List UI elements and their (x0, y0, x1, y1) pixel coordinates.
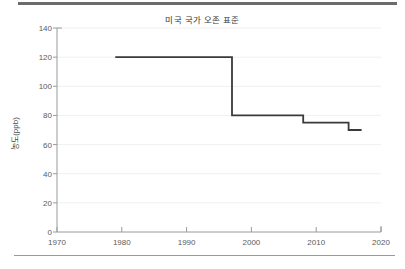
y-tick-label: 40 (26, 169, 52, 178)
y-tick-label: 60 (26, 140, 52, 149)
y-tick-label: 20 (26, 198, 52, 207)
gridlines-group (57, 28, 381, 203)
y-tick-label: 80 (26, 111, 52, 120)
x-tick-label: 2010 (296, 238, 336, 247)
y-axis-tick-labels: 020406080100120140 (26, 0, 52, 269)
chart-plot (0, 0, 405, 269)
ozone-standard-step-line (115, 57, 361, 130)
tick-marks-group (53, 28, 381, 232)
ozone-standard-figure: 미국 국가 오존 표준 농도(ppb) 020406080100120140 1… (0, 0, 405, 269)
x-tick-label: 2000 (231, 238, 271, 247)
x-tick-label: 1980 (102, 238, 142, 247)
y-tick-label: 120 (26, 53, 52, 62)
x-tick-label: 1990 (167, 238, 207, 247)
y-tick-label: 140 (26, 24, 52, 33)
x-tick-label: 1970 (37, 238, 77, 247)
x-axis-tick-labels: 197019801990200020102020 (0, 232, 405, 252)
y-tick-label: 100 (26, 82, 52, 91)
bottom-divider (14, 255, 395, 256)
x-tick-label: 2020 (361, 238, 401, 247)
